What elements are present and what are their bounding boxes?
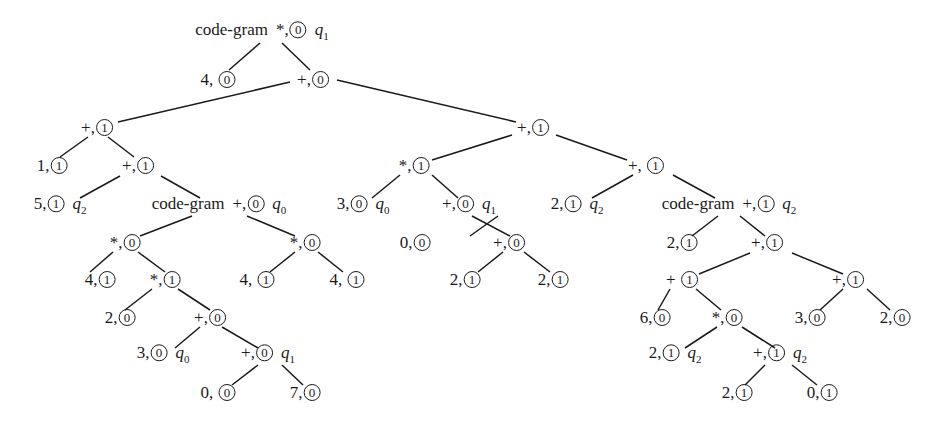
tree-node: 2,1 — [667, 233, 698, 253]
code-gram-label: code-gram — [195, 20, 268, 39]
node-label: +, — [832, 270, 846, 289]
circled-bit: 0 — [350, 195, 367, 212]
tree-node: code-gram*,0q1 — [195, 20, 328, 45]
circled-bit: 0 — [457, 195, 474, 212]
tree-edge — [337, 80, 516, 122]
circled-bit: 0 — [653, 309, 670, 326]
circled-bit: 1 — [50, 157, 67, 174]
state-label: q1 — [281, 343, 295, 362]
node-label: +, — [628, 156, 646, 175]
circled-bit: 1 — [463, 271, 480, 288]
circled-bit: 1 — [532, 119, 549, 136]
node-label: *, — [150, 270, 163, 289]
node-label: 0, — [807, 383, 820, 402]
state-label: q0 — [375, 194, 389, 213]
tree-node: 5,1q2 — [34, 194, 87, 219]
circled-bit: 1 — [96, 119, 113, 136]
circled-bit: 0 — [123, 234, 140, 251]
node-label: +, — [442, 194, 456, 213]
node-label: *, — [110, 233, 123, 252]
state-subscript: 2 — [801, 353, 807, 365]
node-label: 5, — [34, 194, 47, 213]
circled-bit: 0 — [290, 21, 307, 38]
state-label: q2 — [687, 343, 701, 362]
circled-bit: 0 — [508, 234, 525, 251]
tree-node: 4, 1 — [330, 270, 365, 290]
tree-edge — [282, 43, 310, 70]
tree-edge — [178, 289, 210, 310]
node-label: +, — [517, 118, 531, 137]
tree-node: +,1 — [122, 156, 154, 176]
circled-bit: 1 — [680, 234, 697, 251]
tree-node: +,0 — [493, 233, 525, 253]
tree-node: *,0 — [110, 233, 141, 253]
state-subscript: 1 — [490, 204, 496, 216]
node-label: *, — [399, 156, 412, 175]
tree-node: 1,1 — [37, 156, 68, 176]
state-subscript: 1 — [323, 30, 329, 42]
tree-edge — [125, 289, 152, 310]
tree-node: 0,1 — [807, 383, 838, 403]
node-label: +, — [751, 233, 765, 252]
tree-edge — [90, 252, 113, 272]
circled-bit: 1 — [551, 271, 568, 288]
node-label: +, — [297, 70, 311, 89]
tree-edge — [138, 252, 165, 272]
tree-node: 3,0q0 — [137, 343, 190, 368]
circled-bit: 0 — [413, 234, 430, 251]
node-label: 2, — [722, 383, 735, 402]
tree-node: +,1 — [517, 118, 549, 138]
circled-bit: 0 — [303, 384, 320, 401]
tree-node: 7,0 — [290, 383, 321, 403]
node-label: 2, — [667, 233, 680, 252]
node-label: 4, — [330, 270, 347, 289]
node-label: +, — [742, 194, 756, 213]
state-label: q2 — [782, 194, 796, 213]
circled-bit: 0 — [118, 309, 135, 326]
node-label: 3, — [137, 343, 150, 362]
circled-bit: 1 — [47, 195, 64, 212]
node-label: 0, — [400, 233, 413, 252]
circled-bit: 1 — [847, 271, 864, 288]
tree-node: 2,1 — [450, 270, 481, 290]
tree-edge — [820, 289, 843, 310]
node-label: +, — [122, 156, 136, 175]
tree-node: 3,0q0 — [337, 194, 390, 219]
circled-bit: 0 — [209, 309, 226, 326]
tree-node: *,0 — [290, 233, 321, 253]
circled-bit: 0 — [303, 234, 320, 251]
state-subscript: 2 — [81, 204, 87, 216]
tree-node: + 1 — [666, 270, 698, 290]
state-subscript: 1 — [289, 353, 295, 365]
circled-bit: 1 — [820, 384, 837, 401]
tree-node: 2,1q2 — [551, 194, 604, 219]
tree-node: +,0q1 — [241, 343, 295, 368]
node-label: 2, — [649, 343, 662, 362]
circled-bit: 1 — [348, 271, 365, 288]
tree-edge — [60, 137, 88, 157]
tree-edge — [658, 289, 670, 310]
node-label: 2, — [880, 308, 893, 327]
node-label: 2, — [105, 308, 118, 327]
tree-node: 2,1 — [722, 383, 753, 403]
circled-bit: 0 — [150, 344, 167, 361]
tree-node: +,0q1 — [442, 194, 496, 219]
node-label: +, — [753, 343, 767, 362]
tree-edge — [108, 137, 134, 157]
circled-bit: 1 — [681, 271, 698, 288]
node-label: 6, — [640, 308, 653, 327]
circled-bit: 1 — [163, 271, 180, 288]
tree-node: +,0 — [194, 308, 226, 328]
state-subscript: 2 — [791, 204, 797, 216]
tree-edge — [699, 253, 750, 274]
tree-edge — [229, 43, 260, 70]
node-label: *, — [276, 20, 289, 39]
tree-edge — [478, 252, 503, 272]
state-subscript: 0 — [384, 204, 390, 216]
tree-node: +, 1 — [628, 156, 664, 176]
state-subscript: 2 — [598, 204, 604, 216]
node-label: +, — [241, 343, 255, 362]
tree-node: 4,1 — [85, 270, 116, 290]
code-gram-label: code-gram — [152, 194, 225, 213]
tree-node: *,0 — [712, 308, 743, 328]
